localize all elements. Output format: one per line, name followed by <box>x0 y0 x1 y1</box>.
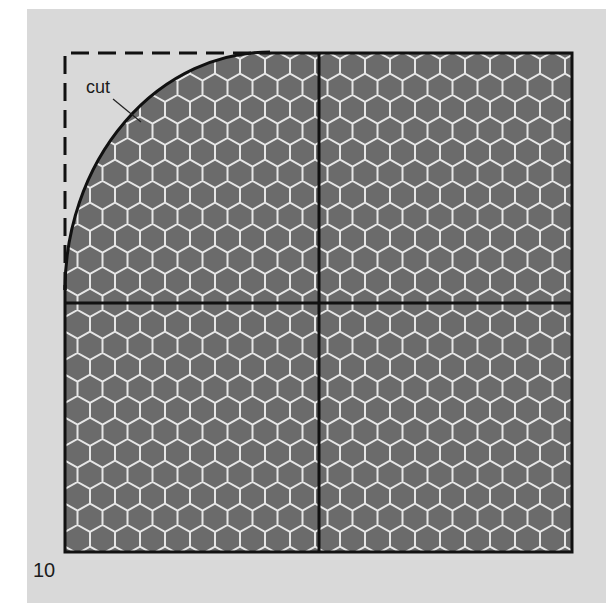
cut-label: cut <box>86 77 110 98</box>
figure-number: 10 <box>33 559 55 582</box>
